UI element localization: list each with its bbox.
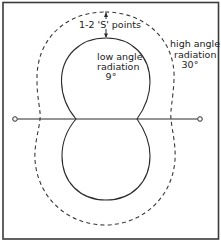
low-angle-label-line2: radiation [97, 61, 139, 72]
radiation-pattern-diagram: 1-2 'S' points low angle radiation 9° hi… [0, 0, 221, 244]
left-insulator-icon [13, 117, 18, 122]
diagram-frame: 1-2 'S' points low angle radiation 9° hi… [0, 0, 221, 244]
high-angle-value: 30° [182, 59, 199, 70]
right-insulator-icon [198, 117, 203, 122]
low-angle-value: 9° [106, 71, 117, 82]
high-angle-label-line1: high angle [170, 38, 220, 49]
s-points-label: 1-2 'S' points [79, 19, 141, 30]
